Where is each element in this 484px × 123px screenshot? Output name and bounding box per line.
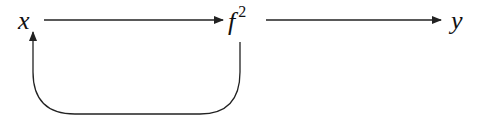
- node-y: y: [448, 6, 463, 35]
- feedback-arrow-f2-to-x: [33, 32, 240, 114]
- node-f2: f2: [228, 3, 246, 36]
- node-x: x: [17, 6, 30, 35]
- diagram-canvas: x f2 y: [0, 0, 484, 123]
